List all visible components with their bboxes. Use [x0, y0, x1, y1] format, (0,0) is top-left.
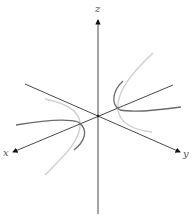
axes [13, 20, 180, 214]
dark-curve-upper-right-horizontal [120, 107, 181, 111]
axes-and-curves [0, 0, 193, 224]
light-curve-upper-right [118, 53, 153, 132]
y-axis-label: y [183, 149, 189, 159]
z-axis-label: z [95, 4, 100, 14]
x-axis-label: x [3, 148, 9, 158]
light-curves [45, 53, 153, 175]
origin-point [97, 115, 99, 117]
dark-curve-lower-left-horizontal [16, 120, 78, 125]
y-axis [25, 84, 180, 152]
diagram-canvas: z x y [0, 0, 193, 224]
x-axis [13, 85, 173, 152]
light-curve-lower-left [45, 99, 80, 175]
